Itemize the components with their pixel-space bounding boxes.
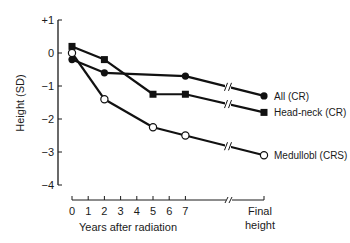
filled-circle-marker-icon [101, 69, 108, 76]
square-marker-icon [182, 91, 189, 98]
square-marker-icon [150, 91, 157, 98]
y-tick-label: −1 [41, 80, 54, 92]
y-tick-label: −4 [41, 179, 54, 191]
x-tick-final-line2: height [245, 219, 275, 231]
filled-circle-marker-icon [182, 73, 189, 80]
x-tick-label: 1 [85, 205, 91, 217]
x-tick-label: 7 [182, 205, 188, 217]
open-circle-marker-icon [260, 152, 267, 159]
square-marker-icon [101, 56, 108, 63]
x-tick-label: 4 [134, 205, 140, 217]
line-chart: +10−1−2−3−4 Height (SD) 01234567 Years a… [0, 0, 350, 243]
y-tick-label: +1 [41, 14, 54, 26]
x-axis-title: Years after radiation [79, 221, 177, 233]
x-tick-label: 0 [69, 205, 75, 217]
x-tick-label: 2 [101, 205, 107, 217]
filled-circle-marker-icon [260, 92, 267, 99]
y-tick-label: −3 [41, 146, 54, 158]
x-axis: 01234567 [69, 196, 264, 217]
x-tick-final-line1: Final [248, 205, 272, 217]
axis-break-icon [225, 197, 232, 203]
x-tick-label: 3 [118, 205, 124, 217]
x-tick-label: 6 [166, 205, 172, 217]
open-circle-marker-icon [101, 96, 108, 103]
square-marker-icon [261, 109, 268, 116]
series-medullobl-crs: Medullobl (CRS) [68, 49, 347, 161]
open-circle-marker-icon [68, 49, 75, 56]
open-circle-marker-icon [182, 132, 189, 139]
series-label: Medullobl (CRS) [274, 150, 347, 161]
y-tick-label: −2 [41, 113, 54, 125]
y-axis-title: Height (SD) [14, 74, 26, 131]
y-tick-label: 0 [48, 47, 54, 59]
open-circle-marker-icon [149, 124, 156, 131]
series-layer: All (CR)Head-neck (CR)Medullobl (CRS) [68, 43, 347, 161]
series-label: Head-neck (CR) [274, 107, 346, 118]
series-label: All (CR) [274, 91, 309, 102]
y-axis: +10−1−2−3−4 [41, 14, 62, 191]
x-tick-label: 5 [150, 205, 156, 217]
